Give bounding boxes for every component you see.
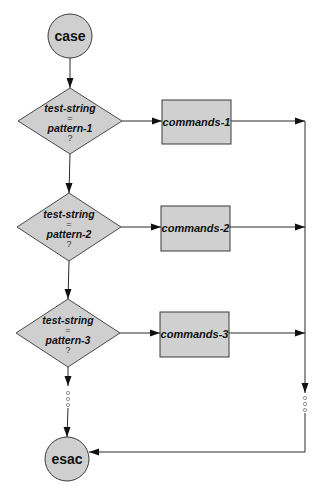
decision-question-mark: ? (65, 345, 70, 355)
decision-question-mark: ? (66, 239, 71, 249)
decision-test-label: test-string (44, 102, 96, 114)
arrowhead-icon (64, 427, 71, 437)
decision-pattern-label: pattern-2 (46, 228, 92, 240)
decision-pattern-label: pattern-1 (47, 122, 93, 134)
arrowhead-icon (67, 78, 74, 88)
ellipsis-dot-icon (66, 397, 69, 400)
arrowhead-icon (302, 383, 309, 393)
start-label: case (54, 28, 85, 44)
nodes: case esac test-string = pattern-1 ? comm… (16, 14, 231, 481)
arrowhead-icon (152, 118, 162, 125)
arrowhead-icon (65, 289, 72, 299)
ellipsis-dot-icon (303, 402, 306, 405)
arrowhead-icon (295, 330, 305, 337)
ellipsis-dot-icon (303, 396, 306, 399)
end-label: esac (51, 451, 82, 467)
end-node-esac: esac (45, 437, 89, 481)
decision-test-label: test-string (43, 208, 95, 220)
arrowhead-icon (66, 183, 73, 193)
ellipsis-dot-icon (66, 391, 69, 394)
ellipsis-dot-icon (66, 403, 69, 406)
decision-question-mark: ? (67, 133, 72, 143)
decision-test-label: test-string (42, 314, 94, 326)
arrowhead-icon (295, 118, 305, 125)
arrowhead-icon (151, 224, 161, 231)
commands-label: commands-1 (163, 116, 231, 128)
decision-pattern-label: pattern-3 (45, 334, 91, 346)
arrowhead-icon (65, 376, 72, 386)
arrowhead-icon (150, 330, 160, 337)
ellipsis-dot-icon (303, 408, 306, 411)
start-node-case: case (48, 14, 92, 58)
arrowhead-icon (295, 224, 305, 231)
commands-label: commands-2 (162, 222, 230, 234)
case-flowchart: case esac test-string = pattern-1 ? comm… (0, 0, 321, 495)
commands-label: commands-3 (161, 328, 229, 340)
arrowhead-icon (89, 449, 99, 456)
